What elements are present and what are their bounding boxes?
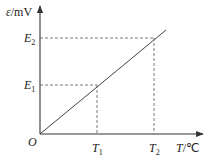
data-line <box>40 30 166 134</box>
thermocouple-graph: ε/mV E2 E1 O T1 T2 T/℃ <box>0 0 208 161</box>
origin-label: O <box>28 135 37 149</box>
x-axis-label: T/℃ <box>176 141 199 155</box>
tick-t2: T2 <box>149 141 160 157</box>
y-axis-label: ε/mV <box>6 5 32 19</box>
tick-e2: E2 <box>23 31 35 47</box>
tick-e1: E1 <box>23 78 35 94</box>
tick-t1: T1 <box>92 141 103 157</box>
